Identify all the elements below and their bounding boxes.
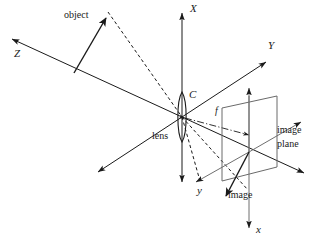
lens-label: lens: [152, 131, 168, 142]
image-label: image: [228, 190, 252, 201]
world-axis-z-label: Z: [14, 48, 20, 60]
image-plane-label-line1: image: [277, 125, 301, 136]
image-axis-y-label: y: [197, 185, 202, 197]
optical-center-label: C: [189, 89, 196, 101]
object-vector-arrow: [74, 18, 106, 73]
focal-length-label: f: [215, 106, 218, 117]
image-axis-x-label: x: [256, 224, 261, 236]
diagram-canvas: [0, 0, 315, 243]
dashed-projection-rays: [108, 12, 248, 190]
image-plane-label-line2: plane: [277, 139, 299, 150]
object-label: object: [64, 10, 88, 21]
world-axis-z: [12, 39, 304, 173]
world-axis-y-negative: [98, 117, 182, 172]
world-axis-x-label: X: [190, 3, 197, 15]
world-axis-y-label: Y: [268, 40, 274, 52]
dash-dot-focal-length-marker: [185, 118, 249, 135]
world-axis-z-positive: [12, 39, 182, 117]
optics-projection-diagram: X Y Z C f object lens y x image image pl…: [0, 0, 315, 243]
ray-object-tip-to-center: [108, 12, 182, 117]
